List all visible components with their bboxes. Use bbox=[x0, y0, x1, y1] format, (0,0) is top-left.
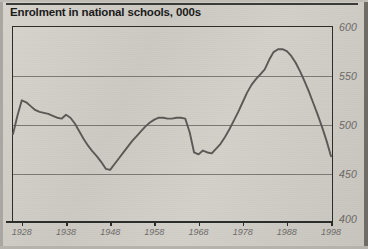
x-tick-1998 bbox=[331, 222, 333, 226]
x-tick-1948 bbox=[110, 222, 112, 226]
y-tick-label-550: 550 bbox=[339, 70, 357, 82]
title-divider bbox=[6, 3, 358, 5]
x-tick-label-1928: 1928 bbox=[12, 227, 32, 237]
x-tick-label-1978: 1978 bbox=[233, 227, 253, 237]
scan-edge-left bbox=[0, 0, 3, 249]
x-tick-label-1968: 1968 bbox=[188, 227, 208, 237]
x-tick-1958 bbox=[154, 222, 156, 226]
x-tick-1968 bbox=[199, 222, 201, 226]
plot-area bbox=[12, 26, 333, 222]
scan-edge-right bbox=[364, 0, 368, 249]
y-tick-label-600: 600 bbox=[339, 21, 357, 33]
x-tick-label-1948: 1948 bbox=[100, 227, 120, 237]
x-tick-1938 bbox=[66, 222, 68, 226]
data-line-series bbox=[13, 27, 331, 220]
x-tick-label-1988: 1988 bbox=[277, 227, 297, 237]
x-tick-1988 bbox=[287, 222, 289, 226]
y-tick-label-450: 450 bbox=[339, 168, 357, 180]
x-tick-label-1958: 1958 bbox=[144, 227, 164, 237]
x-tick-1928 bbox=[22, 222, 24, 226]
chart-title: Enrolment in national schools, 000s bbox=[10, 6, 201, 18]
scan-edge-top bbox=[0, 0, 368, 2]
x-tick-label-1998: 1998 bbox=[321, 227, 341, 237]
chart-figure: Enrolment in national schools, 000s 600 … bbox=[0, 0, 368, 249]
x-tick-1978 bbox=[243, 222, 245, 226]
x-tick-label-1938: 1938 bbox=[56, 227, 76, 237]
y-tick-label-500: 500 bbox=[339, 119, 357, 131]
plot-inner bbox=[13, 27, 332, 221]
y-tick-label-400: 400 bbox=[339, 213, 357, 225]
